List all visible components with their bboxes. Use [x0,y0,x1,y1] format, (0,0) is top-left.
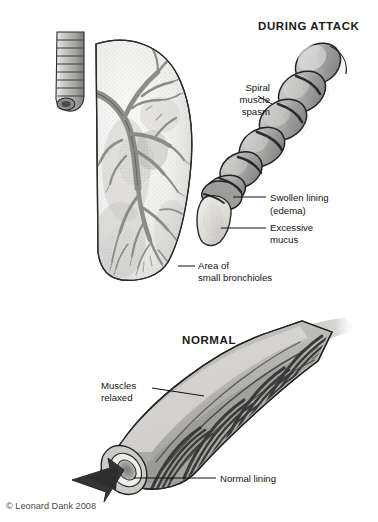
label-muscle: muscle [240,94,270,105]
label-edema: (edema) [270,205,306,216]
trachea [56,32,84,111]
illustration-canvas: Area of small bronchioles DURING ATTACK [0,0,378,522]
label-mucus: mucus [270,234,298,245]
label-muscles: Muscles [101,380,136,391]
label-area-of: Area of [198,260,229,271]
heading-normal: NORMAL [182,334,236,346]
label-swollen-lining: Swollen lining [270,192,329,203]
label-small-bronchioles: small bronchioles [198,272,272,283]
label-normal-lining: Normal lining [220,473,276,484]
copyright-credit: © Leonard Dank 2008 [6,501,96,511]
asthma-illustration: Area of small bronchioles DURING ATTACK [0,0,378,522]
label-spiral: Spiral [245,82,270,93]
label-relaxed: relaxed [101,392,132,403]
heading-during-attack: DURING ATTACK [258,20,360,32]
label-spasm: spasm [242,106,270,117]
label-excessive: Excessive [270,222,313,233]
bronchus-lumen [61,101,70,107]
